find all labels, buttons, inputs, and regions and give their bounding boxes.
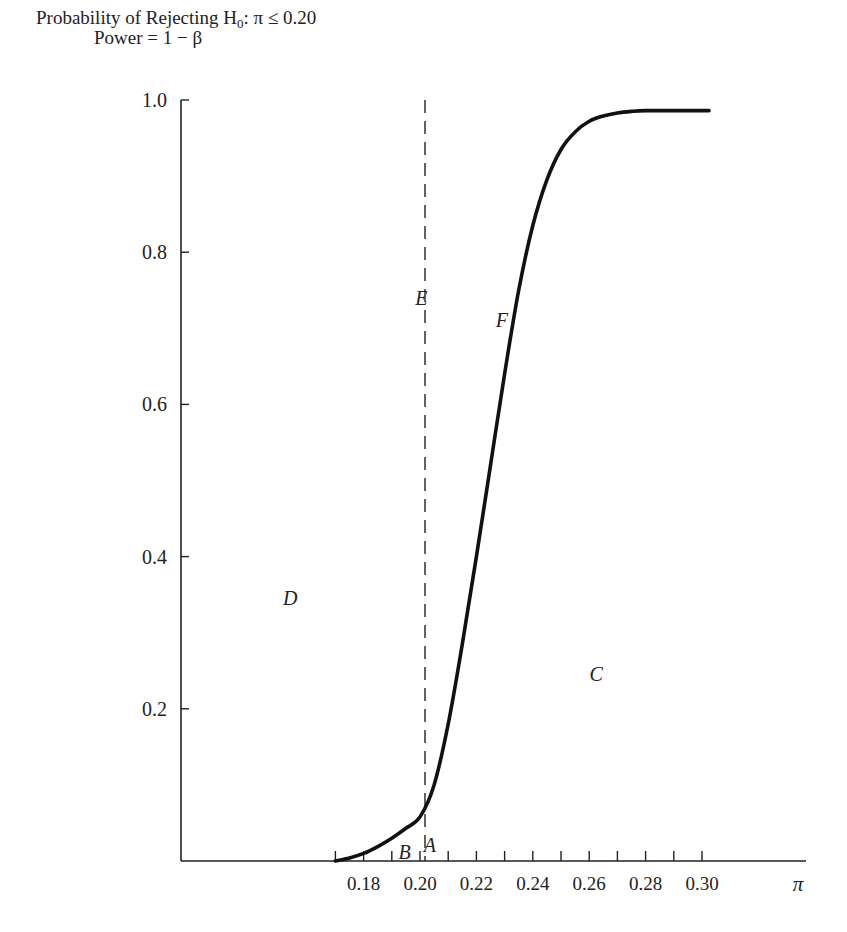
x-tick-label: 0.26 [573, 873, 606, 894]
x-axis-label: π [793, 872, 804, 896]
x-tick-label: 0.18 [347, 873, 380, 894]
power-curve-chart: ABCDEF 0.180.200.220.240.260.280.30 0.20… [0, 0, 847, 932]
x-tick-label: 0.30 [685, 873, 718, 894]
region-label-d: D [282, 587, 298, 609]
x-axis-label-pi: π [793, 872, 804, 896]
x-tick-label: 0.28 [629, 873, 662, 894]
y-tick-label: 1.0 [142, 89, 167, 111]
power-curve-line [335, 111, 709, 861]
y-axis-ticks [181, 100, 189, 709]
y-tick-label: 0.6 [142, 393, 167, 415]
x-tick-label: 0.22 [460, 873, 493, 894]
y-tick-label: 0.8 [142, 241, 167, 263]
region-label-c: C [590, 663, 604, 685]
region-labels: ABCDEF [282, 287, 604, 863]
region-label-e: E [414, 287, 427, 309]
x-tick-label: 0.20 [403, 873, 436, 894]
region-label-b: B [398, 841, 410, 863]
x-axis-ticks [335, 851, 702, 861]
region-label-a: A [422, 834, 437, 856]
axes [181, 100, 806, 861]
power-curve [335, 111, 709, 861]
region-label-f: F [495, 309, 509, 331]
y-axis-tick-labels: 0.20.40.60.81.0 [142, 89, 167, 720]
y-tick-label: 0.2 [142, 698, 167, 720]
x-axis-tick-labels: 0.180.200.220.240.260.280.30 [347, 873, 719, 894]
x-tick-label: 0.24 [516, 873, 550, 894]
y-tick-label: 0.4 [142, 546, 167, 568]
